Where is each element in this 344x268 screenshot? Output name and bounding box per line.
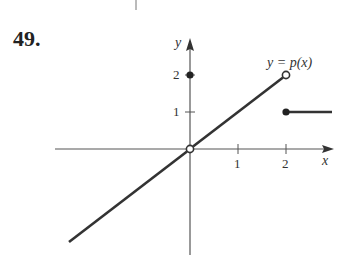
- filled-dot-0-2: [186, 71, 193, 78]
- line-segment-middle: [193, 78, 283, 147]
- filled-dot-2-1: [282, 108, 289, 115]
- open-circle-origin: [186, 145, 193, 152]
- piecewise-graph-figure: 49. 1 2 x 1 2 y y = p(x): [0, 0, 344, 268]
- line-segment-left: [69, 152, 187, 243]
- function-label: y = p(x): [265, 55, 313, 71]
- x-tick-2: 2: [282, 156, 289, 171]
- y-axis-label: y: [173, 35, 182, 50]
- x-axis-label: x: [321, 153, 329, 168]
- y-tick-1: 1: [173, 104, 180, 119]
- problem-number: 49.: [13, 26, 41, 51]
- y-tick-2: 2: [173, 67, 180, 82]
- x-tick-1: 1: [234, 156, 241, 171]
- x-axis: 1 2 x: [55, 144, 334, 171]
- open-circle-2-2: [282, 71, 289, 78]
